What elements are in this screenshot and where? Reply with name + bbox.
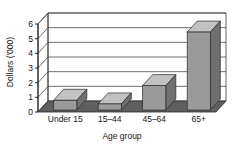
bar bbox=[187, 21, 220, 110]
x-tick-label: Under 15 bbox=[48, 114, 83, 124]
y-tick-label: 3 bbox=[28, 63, 33, 73]
bar-front-face bbox=[54, 100, 77, 110]
x-tick-label: 65+ bbox=[192, 114, 206, 124]
bar-side-face bbox=[210, 21, 220, 110]
bar-front-face bbox=[143, 86, 166, 110]
y-tick-label: 1 bbox=[28, 92, 33, 102]
chart-canvas: 0123456 Under 1515–4445–6465+ Age group … bbox=[0, 0, 242, 145]
bar bbox=[143, 75, 176, 110]
x-tick-label: 45–64 bbox=[142, 114, 166, 124]
y-tick-label: 5 bbox=[28, 34, 33, 44]
bar-front-face bbox=[98, 104, 121, 110]
y-axis-ticks: 0123456 bbox=[28, 19, 38, 117]
y-axis-title: Dollars ('000) bbox=[5, 37, 15, 87]
y-tick-label: 2 bbox=[28, 78, 33, 88]
bar-front-face bbox=[187, 32, 210, 110]
y-tick-label: 6 bbox=[28, 19, 33, 29]
x-axis-title: Age group bbox=[102, 131, 141, 141]
y-tick-label: 0 bbox=[28, 107, 33, 117]
bar-chart: 0123456 Under 1515–4445–6465+ Age group … bbox=[0, 0, 242, 145]
x-axis-tick-labels: Under 1515–4445–6465+ bbox=[48, 114, 206, 124]
y-tick-label: 4 bbox=[28, 48, 33, 58]
x-tick-label: 15–44 bbox=[98, 114, 122, 124]
